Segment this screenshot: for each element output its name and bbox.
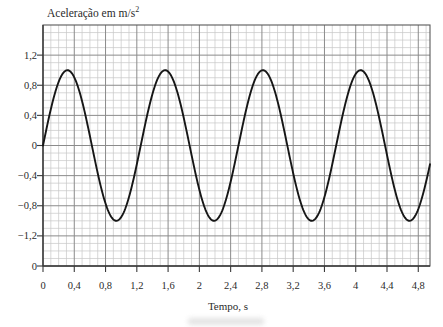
y-tick-label: 0,4 (0, 109, 37, 122)
major-grid (43, 25, 430, 266)
x-tick-label: 3,6 (309, 279, 339, 292)
y-tick-label: −0,4 (0, 169, 37, 182)
x-tick-label: 0 (28, 279, 58, 292)
x-tick-label: 1,6 (153, 279, 183, 292)
x-tick-label: 0,8 (91, 279, 121, 292)
x-tick-label: 0,4 (59, 279, 89, 292)
y-tick-label: 1,2 (0, 49, 37, 62)
x-tick-label: 4,8 (403, 279, 433, 292)
y-tick-label: 0 (0, 139, 37, 152)
y-tick-label: −0,8 (0, 199, 37, 212)
scan-artifact (188, 318, 264, 325)
x-tick-label: 2 (184, 279, 214, 292)
plot-area (0, 0, 443, 327)
x-tick-label: 3,2 (278, 279, 308, 292)
x-tick-label: 2,8 (247, 279, 277, 292)
acceleration-time-chart: Aceleração em m/s2 1,20,80,40−0,4−0,8−1,… (0, 0, 443, 327)
y-tick-label: 0,8 (0, 79, 37, 92)
y-tick-label: 0 (0, 260, 37, 273)
y-tick-label: −1,2 (0, 229, 37, 242)
x-axis-title: Tempo, s (43, 300, 413, 312)
x-tick-label: 4 (341, 279, 371, 292)
axis-tick-marks (37, 55, 418, 272)
x-tick-label: 2,4 (216, 279, 246, 292)
x-tick-label: 4,4 (372, 279, 402, 292)
x-tick-label: 1,2 (122, 279, 152, 292)
